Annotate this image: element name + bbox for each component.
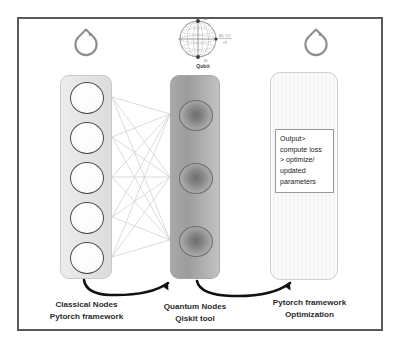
svg-text:√2: √2 (223, 40, 227, 45)
output-line: > optimize/ (280, 155, 330, 166)
pytorch-logo (298, 24, 334, 64)
output-line: updated (280, 166, 330, 177)
bloch-sphere-icon: |0⟩ |1⟩ |0⟩+|1⟩ √2 (172, 14, 234, 64)
output-line: parameters (280, 177, 330, 188)
output-line: compute loss (280, 145, 330, 156)
classical-caption-line2: Pytorch framework (29, 311, 144, 323)
output-text-box: Output> compute loss > optimize/ updated… (275, 129, 334, 193)
classical-node (70, 122, 104, 154)
output-caption-line1: Pytorch framework (247, 297, 372, 309)
classical-node (70, 202, 104, 234)
classical-node (70, 162, 104, 194)
quantum-caption-line2: Qiskit tool (145, 313, 245, 325)
svg-text:|0⟩: |0⟩ (204, 16, 209, 21)
quantum-node (179, 163, 213, 194)
classical-caption-line1: Classical Nodes (29, 299, 144, 311)
output-caption: Pytorch framework Optimization (247, 297, 372, 320)
svg-text:|1⟩: |1⟩ (204, 58, 209, 63)
output-caption-line2: Optimization (247, 309, 372, 321)
qubit-label: Qubit (172, 63, 234, 69)
classical-caption: Classical Nodes Pytorch framework (29, 299, 144, 322)
diagram-canvas: |0⟩ |1⟩ |0⟩+|1⟩ √2 Qubit Output> compute… (0, 0, 402, 349)
quantum-nodes-column (170, 75, 220, 279)
output-line: Output> (280, 134, 330, 145)
quantum-node (179, 100, 213, 131)
svg-text:|0⟩+|1⟩: |0⟩+|1⟩ (219, 33, 231, 38)
pytorch-logo (68, 24, 104, 64)
quantum-caption-line1: Quantum Nodes (145, 301, 245, 313)
quantum-caption: Quantum Nodes Qiskit tool (145, 301, 245, 324)
quantum-node (179, 226, 213, 257)
classical-node (70, 82, 104, 114)
classical-nodes-column (60, 75, 112, 279)
classical-node (70, 242, 104, 274)
